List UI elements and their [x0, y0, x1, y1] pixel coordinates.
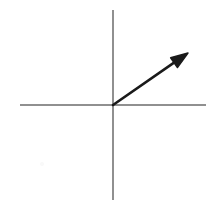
vector-diagram-figure: Vector in the first quadrant on Cartesia… — [0, 0, 216, 213]
diagram-canvas — [0, 0, 216, 213]
figure-background — [0, 0, 216, 213]
background-speck — [40, 162, 44, 166]
